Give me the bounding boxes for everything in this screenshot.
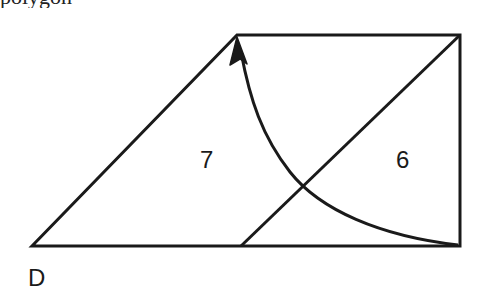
diagonal-line <box>241 35 460 246</box>
trapezoid-outline <box>32 35 460 246</box>
vertex-label-d: D <box>28 266 45 290</box>
trapezoid-diagram <box>0 0 484 296</box>
region-label-7: 7 <box>200 148 213 172</box>
region-label-6: 6 <box>396 148 409 172</box>
